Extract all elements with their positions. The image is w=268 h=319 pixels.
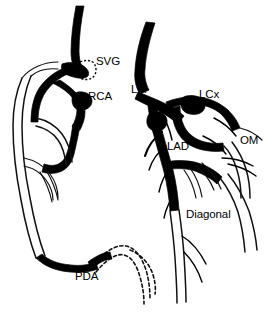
pda-dashed-upper [92,246,150,300]
lad-distal-a [179,210,186,302]
lad-distal-b [170,211,177,303]
label-lad: LAD [167,141,189,153]
lad-apical-branch-2 [184,252,202,282]
rca-av-groove [42,124,80,173]
pda-dashed-lower [96,255,144,304]
label-lm: LM [131,84,147,96]
coronary-vessel-illustration [0,0,268,319]
lad-apical-branch [182,236,206,264]
lad-stenosis [147,111,167,131]
coronary-artery-diagram: SVG RCA LM LCx OM LAD Diagonal PDA [0,0,268,319]
acute-marginal-outline-b [36,126,66,164]
septal-branch-2 [222,158,253,166]
diagonal-main-b [228,174,257,250]
svg-graft-limb [31,68,68,122]
label-om: OM [240,135,258,147]
label-rca: RCA [88,91,112,103]
label-lcx: LCx [199,89,219,101]
label-diagonal: Diagonal [186,209,231,221]
label-pda: PDA [75,271,98,283]
label-svg: SVG [96,56,120,68]
aorta-trunk [71,6,84,67]
